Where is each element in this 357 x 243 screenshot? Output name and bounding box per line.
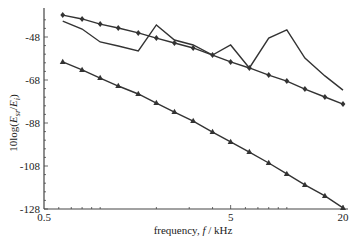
axes: -48-68-88-108-1280.5520 [20,8,349,223]
x-tick-label: 20 [338,211,350,223]
diamond-marker-icon [266,72,271,78]
y-tick-label: -88 [25,117,40,129]
series-triangle [60,59,346,210]
y-tick-label: -48 [25,31,40,43]
y-tick-label: -68 [25,74,40,86]
diamond-marker-icon [228,59,233,65]
chart: -48-68-88-108-1280.5520 frequency, f / k… [0,0,357,243]
diamond-marker-icon [116,25,121,31]
diamond-marker-icon [154,35,159,41]
y-tick-label: -108 [20,160,41,172]
series-line [63,62,343,208]
x-tick-label: 0.5 [37,211,51,223]
diamond-marker-icon [136,30,141,36]
diamond-marker-icon [98,21,103,27]
diamond-marker-icon [60,12,65,18]
triangle-marker-icon [60,59,66,64]
diamond-marker-icon [323,94,328,100]
diamond-marker-icon [80,16,85,22]
diamond-marker-icon [303,86,308,92]
diamond-marker-icon [341,101,346,107]
x-tick-label: 5 [228,211,234,223]
diamond-marker-icon [284,78,289,84]
series-line [63,15,343,104]
series-layer [60,12,346,210]
x-axis-title: frequency, f / kHz [154,224,233,236]
y-axis-title: 10log(Esr/Ei) [7,94,22,152]
series-diamond [60,12,345,107]
